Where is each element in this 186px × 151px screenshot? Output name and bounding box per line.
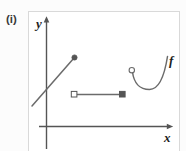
- figure-container: (i) y x: [0, 0, 186, 151]
- x-axis-arrowhead: [167, 124, 173, 130]
- rising-line-segment: [32, 55, 77, 106]
- part-label: (i): [6, 11, 26, 27]
- function-label: f: [169, 53, 175, 68]
- horizontal-segment: [71, 91, 125, 97]
- open-circle-endpoint: [129, 68, 134, 73]
- y-axis-label: y: [34, 16, 42, 31]
- x-axis: [39, 124, 173, 130]
- plot-panel: y x f: [28, 11, 180, 151]
- u-shaped-curve: [129, 57, 167, 90]
- y-axis-arrowhead: [44, 16, 50, 22]
- closed-square-endpoint: [120, 91, 126, 97]
- open-square-endpoint: [71, 91, 77, 97]
- y-axis: [44, 16, 50, 149]
- x-axis-label: x: [163, 130, 171, 145]
- curve-path: [133, 57, 168, 90]
- closed-dot-endpoint: [72, 55, 77, 60]
- rising-line: [32, 58, 74, 106]
- graph-svg: y x f: [29, 12, 180, 151]
